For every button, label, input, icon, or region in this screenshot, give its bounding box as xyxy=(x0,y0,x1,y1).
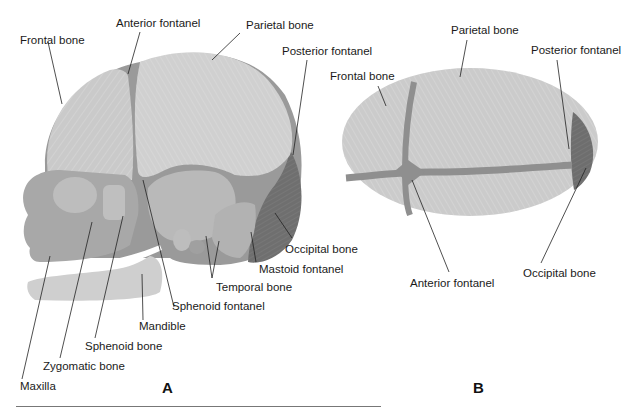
label-posterior-fontanel-a: Posterior fontanel xyxy=(282,46,372,58)
sphenoid-bone-shape xyxy=(103,185,125,220)
label-occipital-bone-a: Occipital bone xyxy=(285,244,358,256)
label-mastoid-fontanel-a: Mastoid fontanel xyxy=(259,264,343,276)
label-sphenoid-fontanel-a: Sphenoid fontanel xyxy=(172,301,265,313)
label-parietal-bone-a: Parietal bone xyxy=(246,20,314,32)
panel-letter-b: B xyxy=(473,380,484,395)
label-occipital-bone-b: Occipital bone xyxy=(523,268,596,280)
label-frontal-bone-a: Frontal bone xyxy=(20,35,85,47)
label-maxilla-a: Maxilla xyxy=(20,381,56,393)
skull-diagram-figure: Frontal bone Anterior fontanel Parietal … xyxy=(0,0,641,419)
label-anterior-fontanel-a: Anterior fontanel xyxy=(116,18,200,30)
label-zygomatic-bone-a: Zygomatic bone xyxy=(43,361,125,373)
label-frontal-bone-b: Frontal bone xyxy=(330,71,395,83)
label-sphenoid-bone-a: Sphenoid bone xyxy=(85,341,162,353)
skull-lateral-illustration xyxy=(0,0,641,419)
panel-letter-a: A xyxy=(162,380,173,395)
label-mandible-a: Mandible xyxy=(139,321,186,333)
label-temporal-bone-a: Temporal bone xyxy=(216,282,292,294)
caption-divider xyxy=(16,406,381,407)
label-parietal-bone-b: Parietal bone xyxy=(451,25,519,37)
label-anterior-fontanel-b: Anterior fontanel xyxy=(410,278,494,290)
label-posterior-fontanel-b: Posterior fontanel xyxy=(531,45,621,57)
